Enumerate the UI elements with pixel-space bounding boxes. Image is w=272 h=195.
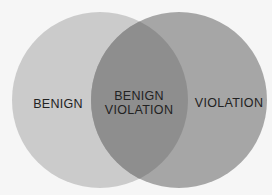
intersection-label-line1: BENIGN [114, 89, 164, 103]
intersection-label-line2: VIOLATION [105, 103, 173, 117]
venn-diagram: BENIGN BENIGN VIOLATION VIOLATION [0, 0, 272, 195]
violation-label: VIOLATION [195, 96, 263, 110]
benign-label: BENIGN [33, 97, 83, 111]
